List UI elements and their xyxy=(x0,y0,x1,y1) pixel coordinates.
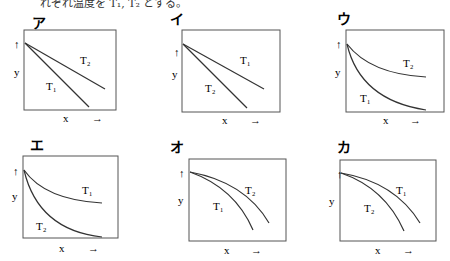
x-arrow: → xyxy=(410,114,421,126)
x-axis-label: x xyxy=(224,244,230,256)
graph-ka: カ ↑ y x → T₁ T₂ xyxy=(300,130,450,261)
curve-upper xyxy=(341,173,420,223)
x-arrow: → xyxy=(403,244,414,256)
y-arrow: ↑ xyxy=(337,168,343,180)
y-axis-label: y xyxy=(329,195,335,207)
panel-label: エ xyxy=(30,137,44,153)
panel-label: ア xyxy=(32,15,46,31)
graph-panel-u: ウ ↑ y x → T₂ T₁ xyxy=(300,0,450,130)
graph-a: ア ↑ y x → T₂ T₁ xyxy=(0,0,150,130)
upper-curve-label: T₂ xyxy=(245,184,256,196)
upper-curve-label: T₁ xyxy=(396,184,407,196)
y-axis-label: y xyxy=(12,190,18,202)
x-axis-label: x xyxy=(222,114,228,126)
y-axis-label: y xyxy=(14,66,20,78)
x-arrow: → xyxy=(92,112,103,124)
y-axis-label: y xyxy=(172,68,178,80)
panel-label: ウ xyxy=(337,11,351,27)
y-axis-label: y xyxy=(335,66,341,78)
x-arrow: → xyxy=(250,114,261,126)
y-arrow: ↑ xyxy=(336,38,342,50)
graph-o: オ ↑ y x → T₂ T₁ xyxy=(150,130,300,261)
graph-i: イ ↑ y x → T₁ T₂ xyxy=(150,0,300,130)
graph-e: エ ↑ y x → T₁ T₂ xyxy=(0,130,150,261)
panel-label: カ xyxy=(337,139,351,155)
graph-panel-ka: カ ↑ y x → T₁ T₂ xyxy=(300,130,450,260)
y-arrow: ↑ xyxy=(14,38,20,50)
curve-upper xyxy=(190,172,269,223)
curve-lower xyxy=(347,44,426,110)
x-axis-label: x xyxy=(375,244,381,256)
x-axis-label: x xyxy=(63,112,69,124)
lower-curve-label: T₁ xyxy=(46,80,57,92)
y-axis-label: y xyxy=(178,194,184,206)
curve-upper xyxy=(183,44,264,89)
curve-upper xyxy=(25,43,105,89)
x-axis-label: x xyxy=(383,114,389,126)
curve-lower xyxy=(183,44,247,108)
graph-panel-o: オ ↑ y x → T₂ T₁ xyxy=(150,130,300,260)
lower-curve-label: T₂ xyxy=(36,220,47,232)
x-arrow: → xyxy=(251,244,262,256)
graph-panel-e: エ ↑ y x → T₁ T₂ xyxy=(0,130,150,260)
curve-lower xyxy=(25,43,89,107)
upper-curve-label: T₁ xyxy=(240,54,251,66)
lower-curve-label: T₂ xyxy=(205,82,216,94)
panel-label: オ xyxy=(170,139,184,155)
lower-curve-label: T₁ xyxy=(213,200,224,212)
lower-curve-label: T₂ xyxy=(364,202,375,214)
graph-panel-a: ア ↑ y x → T₂ T₁ xyxy=(0,0,150,130)
y-arrow: ↑ xyxy=(13,165,19,177)
upper-curve-label: T₂ xyxy=(80,54,91,66)
upper-curve-label: T₁ xyxy=(82,184,93,196)
lower-curve-label: T₁ xyxy=(360,92,371,104)
x-axis-label: x xyxy=(59,242,65,254)
x-arrow: → xyxy=(88,242,99,254)
y-arrow: ↑ xyxy=(174,46,180,58)
graph-u: ウ ↑ y x → T₂ T₁ xyxy=(300,0,450,130)
panel-label: イ xyxy=(170,11,184,27)
y-arrow: ↑ xyxy=(179,167,185,179)
graph-panel-i: イ ↑ y x → T₁ T₂ xyxy=(150,0,300,130)
upper-curve-label: T₂ xyxy=(403,57,414,69)
